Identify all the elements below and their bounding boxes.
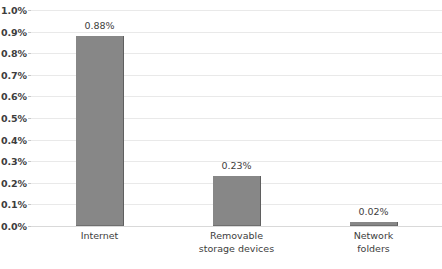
bar[interactable] (350, 222, 398, 226)
y-tick-label: 0.5% (1, 113, 27, 124)
y-tick-label: 1.0% (1, 5, 27, 16)
x-category-label-line: folders (305, 243, 442, 256)
bar[interactable] (213, 176, 261, 226)
y-tick-label: 0.0% (1, 221, 27, 232)
y-tick-mark (28, 226, 31, 227)
bar-chart: 0.0%0.1%0.2%0.3%0.4%0.5%0.6%0.7%0.8%0.9%… (0, 0, 442, 269)
bar-value-label: 0.02% (358, 206, 388, 217)
x-category-label: Removablestorage devices (168, 230, 305, 255)
x-category-label-line: Internet (31, 230, 168, 243)
x-axis: InternetRemovablestorage devicesNetworkf… (31, 230, 442, 269)
y-tick-label: 0.9% (1, 26, 27, 37)
y-tick-label: 0.7% (1, 69, 27, 80)
y-tick-label: 0.2% (1, 177, 27, 188)
bar[interactable] (76, 36, 124, 226)
bar-group: 0.02% (350, 10, 398, 226)
bar-group: 0.88% (76, 10, 124, 226)
x-category-label: Internet (31, 230, 168, 243)
bar-value-label: 0.88% (84, 20, 114, 31)
x-category-label-line: Removable (168, 230, 305, 243)
bars: 0.88%0.23%0.02% (31, 10, 442, 226)
x-category-label-line: storage devices (168, 243, 305, 256)
y-tick-label: 0.6% (1, 91, 27, 102)
y-tick-label: 0.1% (1, 199, 27, 210)
y-tick-label: 0.3% (1, 156, 27, 167)
axis-baseline (31, 226, 442, 227)
plot-area: 0.88%0.23%0.02% (31, 10, 442, 226)
bar-group: 0.23% (213, 10, 261, 226)
y-tick-label: 0.4% (1, 134, 27, 145)
x-category-label-line: Network (305, 230, 442, 243)
y-axis: 0.0%0.1%0.2%0.3%0.4%0.5%0.6%0.7%0.8%0.9%… (0, 0, 31, 269)
bar-value-label: 0.23% (221, 160, 251, 171)
x-category-label: Networkfolders (305, 230, 442, 255)
y-tick-label: 0.8% (1, 48, 27, 59)
